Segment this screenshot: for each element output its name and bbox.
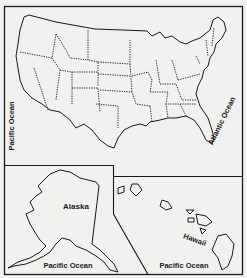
us-map-figure: Pacific Ocean Atlantic Ocean Alaska Paci… (0, 0, 247, 278)
label-pacific-ocean-alaska: Pacific Ocean (43, 261, 93, 270)
state-borders (20, 28, 214, 128)
contiguous-us (16, 15, 226, 148)
label-pacific-ocean-main: Pacific Ocean (7, 101, 16, 151)
label-atlantic-ocean: Atlantic Ocean (206, 95, 237, 147)
hawaii-islands (118, 184, 234, 270)
map-svg: Pacific Ocean Atlantic Ocean Alaska Paci… (0, 0, 247, 278)
label-alaska: Alaska (63, 202, 89, 211)
alaska-outline (8, 170, 118, 272)
inset-divider (5, 166, 243, 177)
label-pacific-ocean-hawaii: Pacific Ocean (159, 261, 209, 270)
label-hawaii: Hawaii (182, 231, 207, 248)
